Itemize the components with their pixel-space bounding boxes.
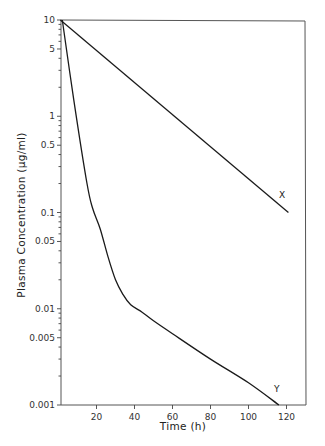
plot-frame	[61, 20, 306, 405]
y-tick-label: 0.01	[35, 304, 55, 314]
y-tick-label: 0.05	[35, 236, 55, 246]
y-tick-label: 0.5	[41, 140, 55, 150]
y-tick-label: 0.1	[41, 208, 55, 218]
y-axis-ticks: 10510.50.10.050.010.0050.001	[29, 15, 61, 410]
plot-border	[61, 20, 306, 405]
x-tick-label: 100	[240, 412, 257, 422]
curve-label-y: Y	[273, 384, 280, 394]
x-tick-label: 40	[129, 412, 141, 422]
y-tick-label: 5	[49, 44, 55, 54]
y-axis-title: Plasma Concentration (µg/ml)	[15, 132, 27, 297]
curve-x	[60, 20, 288, 213]
y-tick-label: 0.005	[29, 333, 55, 343]
curve-y	[62, 20, 279, 405]
y-tick-label: 10	[44, 15, 56, 25]
x-tick-label: 80	[205, 412, 217, 422]
pharmacokinetic-chart: 10510.50.10.050.010.0050.001 20406080100…	[0, 0, 325, 446]
x-tick-label: 20	[91, 412, 103, 422]
curve-label-x: X	[279, 190, 285, 200]
y-tick-label: 1	[49, 111, 55, 121]
x-tick-label: 120	[278, 412, 295, 422]
curves	[60, 20, 288, 405]
x-axis-title: Time (h)	[159, 420, 206, 432]
y-tick-label: 0.001	[29, 400, 55, 410]
